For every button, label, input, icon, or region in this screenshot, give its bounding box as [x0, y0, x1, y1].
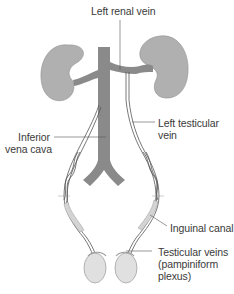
label-left-testicular-vein-2: vein [158, 129, 177, 141]
left-testis [115, 253, 137, 283]
label-left-testicular-vein-1: Left testicular [158, 117, 219, 129]
label-testicular-veins-2: (pampiniform [158, 258, 218, 270]
inguinal-canal-right [64, 202, 84, 232]
inguinal-canal-left [138, 200, 158, 230]
right-testis [84, 253, 106, 283]
right-renal-vein [73, 70, 98, 86]
label-inferior-vena-cava-2: vena cava [5, 143, 52, 155]
label-testicular-veins-1: Testicular veins [158, 246, 228, 258]
label-left-renal-vein: Left renal vein [91, 5, 155, 17]
right-kidney [41, 45, 84, 101]
label-inguinal-canal: Inguinal canal [170, 222, 233, 234]
leader-inguinal-canal [150, 215, 167, 226]
left-testicular-vein [122, 72, 159, 276]
label-inferior-vena-cava-1: Inferior [18, 131, 50, 143]
label-testicular-veins-3: plexus) [158, 270, 191, 282]
right-testicular-vein [64, 105, 101, 276]
